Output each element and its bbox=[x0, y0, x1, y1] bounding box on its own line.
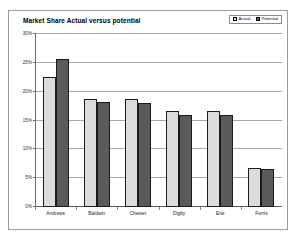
x-axis-tick-mark bbox=[117, 207, 118, 210]
bar-group bbox=[76, 34, 117, 207]
bars-layer bbox=[35, 34, 282, 207]
x-axis-label-chester: Chester bbox=[117, 211, 158, 216]
bar-actual-erie[interactable] bbox=[207, 111, 220, 207]
bar-potential-andrews[interactable] bbox=[56, 59, 69, 207]
bar-group bbox=[241, 34, 282, 207]
y-axis-tick-label: 5% bbox=[25, 175, 32, 180]
legend-label-potential: Potential bbox=[262, 17, 278, 21]
x-axis-tick-mark bbox=[35, 207, 36, 210]
x-axis-tick-mark bbox=[241, 207, 242, 210]
plot-area: 30%25%20%15%10%5%0% bbox=[35, 34, 282, 207]
y-axis-tick-label: 0% bbox=[25, 204, 32, 209]
bar-group bbox=[117, 34, 158, 207]
bar-potential-ferris[interactable] bbox=[261, 169, 274, 207]
chart-frame: Market Share Actual versus potential Act… bbox=[8, 10, 288, 230]
x-axis-label-digby: Digby bbox=[159, 211, 200, 216]
y-axis-tick-label: 25% bbox=[23, 59, 32, 64]
bar-group bbox=[35, 34, 76, 207]
x-axis-label-erie: Erie bbox=[200, 211, 241, 216]
x-axis-label-andrews: Andrews bbox=[35, 211, 76, 216]
y-axis-tick-label: 10% bbox=[23, 146, 32, 151]
x-axis-tick-mark bbox=[159, 207, 160, 210]
chart-title: Market Share Actual versus potential bbox=[23, 17, 141, 24]
bar-potential-chester[interactable] bbox=[138, 103, 151, 207]
legend-entry-actual[interactable]: Actual bbox=[233, 17, 250, 21]
x-axis-tick-mark bbox=[200, 207, 201, 210]
bar-actual-chester[interactable] bbox=[125, 99, 138, 207]
y-axis-tick-label: 20% bbox=[23, 88, 32, 93]
x-axis-label-ferris: Ferris bbox=[241, 211, 282, 216]
bar-group bbox=[200, 34, 241, 207]
legend-entry-potential[interactable]: Potential bbox=[256, 17, 278, 21]
bar-actual-ferris[interactable] bbox=[248, 168, 261, 207]
bar-potential-baldwin[interactable] bbox=[97, 102, 110, 207]
bar-potential-erie[interactable] bbox=[220, 115, 233, 207]
chart-legend: Actual Potential bbox=[229, 15, 282, 24]
legend-label-actual: Actual bbox=[239, 17, 251, 21]
legend-swatch-actual bbox=[233, 17, 237, 21]
y-axis-tick-label: 30% bbox=[23, 31, 32, 36]
x-axis-label-baldwin: Baldwin bbox=[76, 211, 117, 216]
bar-group bbox=[159, 34, 200, 207]
bar-potential-digby[interactable] bbox=[179, 115, 192, 207]
x-axis-labels: AndrewsBaldwinChesterDigbyErieFerris bbox=[35, 211, 282, 223]
bar-actual-digby[interactable] bbox=[166, 111, 179, 207]
y-axis-tick-label: 15% bbox=[23, 117, 32, 122]
legend-swatch-potential bbox=[256, 17, 260, 21]
bar-actual-baldwin[interactable] bbox=[84, 99, 97, 207]
x-axis-tick-mark bbox=[76, 207, 77, 210]
bar-actual-andrews[interactable] bbox=[43, 77, 56, 207]
